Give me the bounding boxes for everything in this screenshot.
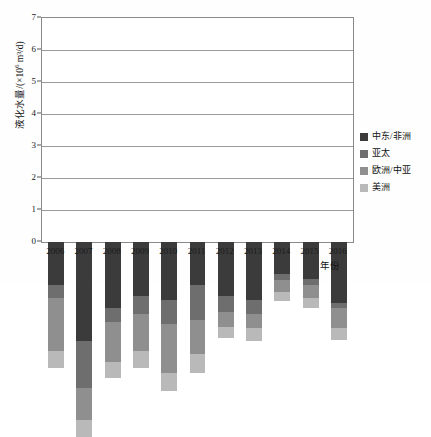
bar-segment[interactable] [274,292,290,302]
bar-segment[interactable] [190,285,206,320]
legend-item-label: 中东/非洲 [372,132,411,141]
bar-segment[interactable] [105,322,121,362]
bar-segment[interactable] [76,388,92,420]
bar-segment[interactable] [246,300,262,314]
bar-segment[interactable] [76,341,92,387]
bar-stack[interactable] [274,183,290,242]
legend-item[interactable]: 欧洲/中亚 [360,165,430,176]
bar-segment[interactable] [218,296,234,312]
bar-segment[interactable] [48,285,64,298]
bar-segment[interactable] [303,298,319,308]
bar-segment[interactable] [303,285,319,298]
legend-item[interactable]: 亚太 [360,148,430,159]
legend-swatch-icon [360,133,368,141]
bar-stack[interactable] [48,116,64,242]
x-axis-tick-label: 2014 [272,246,290,256]
bar-segment[interactable] [274,280,290,291]
x-axis: 2006200720082009201020112012201320142015… [41,244,354,260]
y-axis-tick-label: 5 [32,77,37,86]
x-axis-tick-label: 2007 [74,246,92,256]
bar-segment[interactable] [48,351,64,369]
legend-item[interactable]: 美洲 [360,182,430,193]
bar-stack[interactable] [190,111,206,242]
bar-stack[interactable] [105,106,121,242]
bar-segment[interactable] [161,373,177,391]
bar-segment[interactable] [133,296,149,314]
bar-segment[interactable] [105,362,121,378]
bar-segment[interactable] [218,312,234,326]
legend-swatch-icon [360,184,368,192]
bar-segment[interactable] [331,308,347,329]
x-axis-tick-label: 2008 [103,246,121,256]
x-axis-tick-label: 2010 [159,246,177,256]
legend-item-label: 亚太 [372,149,390,158]
legend-item-label: 美洲 [372,183,390,192]
bar-segment[interactable] [190,320,206,354]
legend: 中东/非洲亚太欧洲/中亚美洲 [360,131,430,199]
x-axis-tick-label: 2015 [301,246,319,256]
y-axis-tick-label: 4 [32,109,37,118]
x-axis-tick-label: 2006 [46,246,64,256]
bar-segment[interactable] [246,314,262,328]
legend-swatch-icon [360,167,368,175]
y-axis: 01234567 [0,17,41,243]
bar-segment[interactable] [218,327,234,338]
bars-layer [42,18,353,242]
bar-segment[interactable] [161,324,177,374]
bar-segment[interactable] [133,351,149,369]
bar-segment[interactable] [303,279,319,285]
x-axis-tick-label: 2016 [329,246,347,256]
legend-item-label: 欧洲/中亚 [372,166,411,175]
bar-segment[interactable] [133,314,149,351]
bar-stack[interactable] [331,144,347,242]
x-axis-tick-label: 2009 [131,246,149,256]
bar-stack[interactable] [246,143,262,242]
y-axis-tick-label: 1 [32,205,37,214]
bar-stack[interactable] [133,116,149,242]
bar-segment[interactable] [161,300,177,324]
x-axis-tick-label: 2011 [188,246,206,256]
bar-segment[interactable] [331,328,347,339]
legend-swatch-icon [360,150,368,158]
bar-segment[interactable] [190,354,206,373]
bar-segment[interactable] [105,308,121,322]
legend-item[interactable]: 中东/非洲 [360,131,430,142]
bar-stack[interactable] [218,146,234,242]
bar-stack[interactable] [161,93,177,242]
y-axis-tick-label: 7 [32,13,37,22]
bar-segment[interactable] [76,420,92,437]
bar-segment[interactable] [274,274,290,280]
y-axis-tick-label: 3 [32,141,37,150]
x-axis-title: 年份 [320,258,340,272]
bar-segment[interactable] [331,303,347,308]
bar-stack[interactable] [303,176,319,242]
y-axis-tick-label: 2 [32,173,37,182]
x-axis-tick-label: 2013 [244,246,262,256]
y-axis-tick-label: 6 [32,45,37,54]
plot-area [41,17,354,243]
y-axis-tick-label: 0 [32,237,37,246]
bar-stack[interactable] [76,47,92,242]
bar-segment[interactable] [246,328,262,341]
bar-segment[interactable] [48,298,64,351]
x-axis-tick-label: 2012 [216,246,234,256]
